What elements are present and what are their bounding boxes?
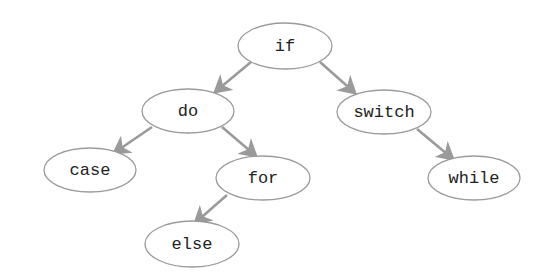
node-label: while bbox=[448, 169, 499, 188]
edges bbox=[114, 62, 453, 223]
node-label: for bbox=[248, 169, 279, 188]
nodes: ifdoswitchcaseforwhileelse bbox=[44, 23, 520, 267]
node-case: case bbox=[44, 148, 136, 192]
edge-if-do bbox=[215, 62, 251, 92]
node-if: if bbox=[238, 23, 332, 69]
edge-if-switch bbox=[320, 62, 355, 93]
edge-for-else bbox=[195, 195, 227, 223]
arrow-icon bbox=[222, 127, 256, 156]
arrow-icon bbox=[215, 62, 251, 92]
edge-switch-while bbox=[417, 129, 453, 159]
arrow-icon bbox=[320, 62, 355, 93]
edge-do-for bbox=[222, 127, 256, 156]
node-switch: switch bbox=[337, 90, 431, 134]
arrow-icon bbox=[195, 195, 227, 223]
arrow-icon bbox=[114, 127, 152, 153]
edge-do-case bbox=[114, 127, 152, 153]
node-else: else bbox=[145, 221, 239, 267]
tree-diagram: ifdoswitchcaseforwhileelse bbox=[0, 0, 551, 276]
node-label: do bbox=[178, 102, 198, 121]
node-label: if bbox=[275, 37, 295, 56]
node-do: do bbox=[142, 89, 234, 133]
node-for: for bbox=[216, 156, 310, 200]
node-while: while bbox=[428, 156, 520, 200]
node-label: case bbox=[70, 161, 111, 180]
node-label: else bbox=[172, 235, 213, 254]
arrow-icon bbox=[417, 129, 453, 159]
node-label: switch bbox=[353, 103, 414, 122]
